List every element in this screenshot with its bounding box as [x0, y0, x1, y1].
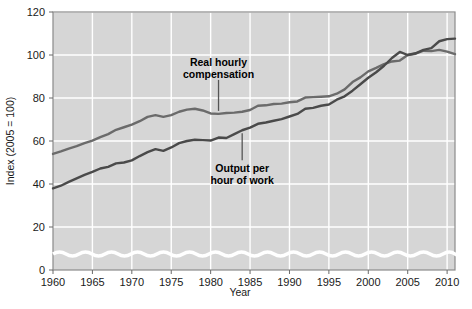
x-tick-label: 1970	[120, 276, 144, 288]
annotation-label-line1: Output per	[215, 162, 269, 174]
line-chart: 020406080100120 196019651970197519801985…	[0, 0, 472, 309]
x-tick-label: 2005	[395, 276, 419, 288]
x-tick-label: 1980	[198, 276, 222, 288]
y-tick-label: 40	[33, 178, 45, 190]
x-tick-label: 1975	[159, 276, 183, 288]
y-tick-label: 80	[33, 92, 45, 104]
annotation-label-line1: Real hourly	[190, 56, 247, 68]
y-tick-label: 60	[33, 135, 45, 147]
x-tick-label: 1965	[80, 276, 104, 288]
y-tick-label: 20	[33, 221, 45, 233]
annotation-label-line2: hour of work	[210, 174, 274, 186]
x-tick-label: 2000	[356, 276, 380, 288]
x-tick-label: 1960	[41, 276, 65, 288]
x-tick-label: 1995	[317, 276, 341, 288]
x-axis-title: Year	[229, 286, 251, 298]
y-axis-title: Index (2005 = 100)	[4, 97, 16, 185]
x-tick-label: 1990	[277, 276, 301, 288]
chart-container: 020406080100120 196019651970197519801985…	[0, 0, 472, 309]
x-tick-label: 2010	[435, 276, 459, 288]
y-tick-label: 0	[39, 264, 45, 276]
y-axis: 020406080100120	[27, 6, 53, 276]
y-tick-label: 120	[27, 6, 45, 18]
y-tick-label: 100	[27, 49, 45, 61]
annotation-label-line2: compensation	[183, 68, 254, 80]
